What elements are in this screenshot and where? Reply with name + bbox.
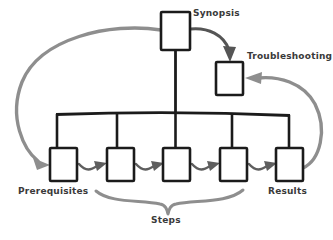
arrowhead-synopsis-to-prerequisites	[33, 158, 50, 170]
connector-step2-to-step3	[136, 164, 154, 170]
node-prerequisites[interactable]	[50, 148, 77, 181]
node-synopsis[interactable]	[161, 12, 190, 50]
arrowhead-step3-to-step4	[207, 161, 220, 171]
connector-step1-to-step2	[79, 164, 97, 170]
node-step-3[interactable]	[163, 148, 190, 181]
arrowhead-synopsis-to-troubleshooting	[223, 46, 236, 62]
node-results[interactable]	[276, 148, 303, 181]
label-synopsis: Synopsis	[193, 9, 240, 18]
label-steps: Steps	[151, 216, 181, 225]
label-prerequisites: Prerequisites	[18, 187, 88, 196]
connector-synopsis-to-troubleshooting	[190, 29, 229, 50]
label-results: Results	[268, 187, 307, 196]
brace-steps	[96, 190, 243, 214]
label-troubleshooting: Troubleshooting	[247, 52, 332, 61]
arrowhead-results-to-troubleshooting	[245, 72, 262, 84]
connector-horizontal-bus	[56, 113, 290, 116]
node-troubleshooting[interactable]	[216, 62, 243, 95]
diagram-canvas: Synopsis Troubleshooting Prerequisites R…	[0, 0, 333, 240]
node-step-4[interactable]	[220, 148, 247, 181]
arrowhead-step1-to-step2	[94, 161, 107, 171]
connector-step3-to-step4	[192, 164, 210, 170]
node-step-2[interactable]	[107, 148, 134, 181]
connector-synopsis-to-prerequisites	[17, 28, 161, 161]
diagram-svg	[0, 0, 333, 240]
connector-step4-to-step5	[249, 164, 267, 170]
